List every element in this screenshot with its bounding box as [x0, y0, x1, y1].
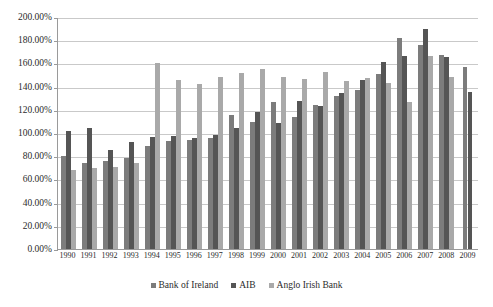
bar-group: [121, 18, 142, 249]
bar: [292, 117, 297, 249]
bar: [386, 83, 391, 249]
bar-group: [184, 18, 205, 249]
bar: [234, 128, 239, 249]
bar-chart: 0.00%20.00%40.00%60.00%80.00%100.00%120.…: [0, 0, 493, 307]
bar-group: [394, 18, 415, 249]
x-axis-tick-label: 1995: [162, 252, 183, 260]
legend-item[interactable]: AIB: [231, 280, 255, 290]
bar: [339, 93, 344, 249]
bar: [113, 167, 118, 249]
bar: [271, 102, 276, 249]
bar: [297, 101, 302, 249]
bar: [176, 80, 181, 249]
bar: [344, 81, 349, 249]
bar: [187, 140, 192, 249]
bar: [334, 96, 339, 249]
bar: [61, 156, 66, 249]
bar: [155, 63, 160, 249]
bar: [166, 141, 171, 249]
bar: [87, 128, 92, 249]
legend-label: Bank of Ireland: [159, 280, 219, 290]
bar: [229, 115, 234, 249]
bar: [376, 74, 381, 249]
x-axis-tick-label: 2002: [310, 252, 331, 260]
legend-swatch-icon: [151, 283, 156, 288]
bar: [134, 163, 139, 249]
y-axis-tick-label: 100.00%: [18, 129, 52, 139]
x-axis-tick-label: 2000: [267, 252, 288, 260]
bar: [449, 77, 454, 249]
x-axis-tick-label: 2006: [394, 252, 415, 260]
x-axis-tick-label: 2009: [457, 252, 478, 260]
bar: [197, 84, 202, 249]
x-axis-tick-label: 1992: [99, 252, 120, 260]
bar: [397, 38, 402, 249]
legend-swatch-icon: [269, 283, 274, 288]
y-axis-tick-label: 60.00%: [23, 176, 52, 186]
x-axis-tick-label: 2007: [415, 252, 436, 260]
bar: [255, 112, 260, 249]
x-axis-tick-label: 1998: [225, 252, 246, 260]
x-axis-tick-label: 2001: [289, 252, 310, 260]
y-axis-tick-label: 80.00%: [23, 152, 52, 162]
legend-label: Anglo Irish Bank: [277, 280, 343, 290]
x-axis-tick-label: 1990: [57, 252, 78, 260]
bar: [355, 90, 360, 249]
y-axis-tick-label: 140.00%: [18, 83, 52, 93]
x-axis-tick-label: 1997: [204, 252, 225, 260]
bar: [208, 138, 213, 249]
x-axis-tick-label: 1993: [120, 252, 141, 260]
y-axis-tick-label: 20.00%: [23, 222, 52, 232]
bar: [103, 161, 108, 249]
bar-group: [163, 18, 184, 249]
bar-groups: [58, 18, 478, 249]
bar-group: [142, 18, 163, 249]
bar: [407, 102, 412, 249]
legend-item[interactable]: Bank of Ireland: [151, 280, 219, 290]
bar-group: [352, 18, 373, 249]
y-axis-tick-label: 0.00%: [27, 245, 52, 255]
bar: [145, 146, 150, 249]
bar: [439, 55, 444, 249]
bar-group: [205, 18, 226, 249]
bar: [423, 29, 428, 249]
bar: [276, 123, 281, 249]
bar: [82, 163, 87, 249]
bar-group: [436, 18, 457, 249]
y-axis-labels: 0.00%20.00%40.00%60.00%80.00%100.00%120.…: [0, 18, 52, 250]
bar: [323, 72, 328, 249]
bar: [428, 56, 433, 249]
bar: [302, 79, 307, 249]
legend-swatch-icon: [231, 283, 236, 288]
bar-group: [457, 18, 478, 249]
bar-group: [331, 18, 352, 249]
x-axis-labels: 1990199119921993199419951996199719981999…: [57, 252, 478, 260]
bar-group: [373, 18, 394, 249]
x-axis-tick-label: 1991: [78, 252, 99, 260]
legend-label: AIB: [239, 280, 255, 290]
y-axis-tick-label: 180.00%: [18, 36, 52, 46]
y-axis-tick-mark: [54, 250, 58, 251]
bar-group: [58, 18, 79, 249]
legend-item[interactable]: Anglo Irish Bank: [269, 280, 343, 290]
bar: [381, 62, 386, 249]
bar: [66, 131, 71, 249]
bar: [213, 135, 218, 249]
bar: [468, 92, 473, 249]
bar: [281, 77, 286, 249]
bar: [171, 136, 176, 249]
x-axis-tick-label: 1999: [246, 252, 267, 260]
bar: [402, 56, 407, 249]
x-axis-tick-label: 2008: [436, 252, 457, 260]
bar: [218, 77, 223, 249]
chart-legend: Bank of IrelandAIBAnglo Irish Bank: [0, 280, 493, 290]
bar: [418, 45, 423, 249]
bar: [313, 105, 318, 249]
bar-group: [268, 18, 289, 249]
bar: [260, 69, 265, 249]
bar: [318, 106, 323, 249]
bar-group: [79, 18, 100, 249]
x-axis-tick-label: 2005: [373, 252, 394, 260]
bar: [250, 122, 255, 249]
bar-group: [247, 18, 268, 249]
